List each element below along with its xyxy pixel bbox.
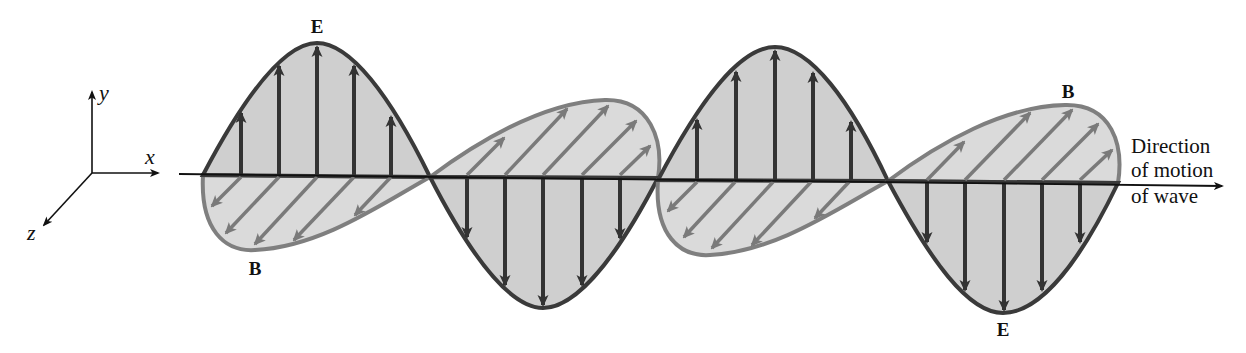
wave-segment-3: [658, 47, 888, 255]
e-field-label-top: E: [311, 16, 324, 37]
coordinate-axes: y x z: [26, 80, 158, 245]
direction-label-line-2: of motion: [1131, 158, 1214, 182]
direction-label-line-3: of wave: [1131, 184, 1198, 208]
b-field-lobe: [658, 180, 888, 255]
b-field-lobe: [430, 100, 659, 178]
z-axis-label: z: [26, 220, 36, 245]
direction-label-line-1: Direction: [1131, 134, 1211, 158]
x-axis-label: x: [144, 144, 155, 169]
direction-of-motion-label: Direction of motion of wave: [1131, 134, 1214, 208]
b-field-lobe: [888, 105, 1119, 183]
z-axis-arrow-icon: [44, 173, 92, 225]
wave-segment-2: [430, 100, 659, 308]
b-field-label-bottom: B: [249, 258, 262, 279]
wave-segment-1: [203, 43, 430, 250]
b-field-lobe: [203, 175, 430, 250]
y-axis-label: y: [97, 80, 109, 105]
e-field-label-bottom: E: [997, 319, 1010, 340]
em-wave-diagram: y x z: [0, 0, 1246, 353]
b-field-label-top: B: [1062, 81, 1075, 102]
wave-segment-4: [888, 105, 1119, 313]
